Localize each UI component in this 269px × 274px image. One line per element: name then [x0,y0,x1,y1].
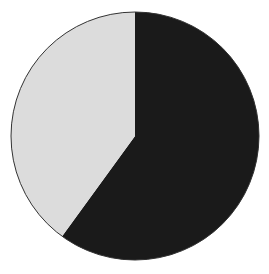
pie-slices [11,12,259,260]
pie-chart [0,0,269,274]
